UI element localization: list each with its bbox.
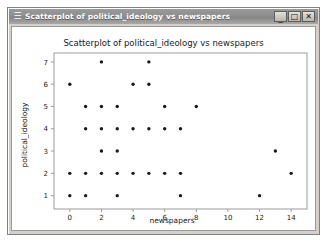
plot-window: ☰ Scatterplot of political_ideology vs n… xyxy=(7,7,320,235)
data-point xyxy=(100,149,103,152)
data-point xyxy=(147,60,150,63)
minimize-icon: _ xyxy=(275,12,286,21)
x-tick-label: 10 xyxy=(223,214,232,222)
y-axis-label: political_ideology xyxy=(20,102,29,168)
data-point xyxy=(84,127,87,130)
data-point xyxy=(179,194,182,197)
minimize-button[interactable]: _ xyxy=(274,11,287,22)
data-point xyxy=(100,105,103,108)
data-points xyxy=(68,60,293,197)
data-point xyxy=(84,172,87,175)
data-point xyxy=(116,127,119,130)
data-point xyxy=(163,127,166,130)
maximize-button[interactable]: □ xyxy=(288,11,301,22)
x-tick-label: 4 xyxy=(131,214,136,222)
maximize-icon: □ xyxy=(289,12,300,21)
data-point xyxy=(116,105,119,108)
data-point xyxy=(147,172,150,175)
data-point xyxy=(289,172,292,175)
close-icon: ✕ xyxy=(303,12,314,21)
y-tick-label: 6 xyxy=(44,81,49,89)
y-tick-label: 3 xyxy=(44,148,48,156)
data-point xyxy=(147,83,150,86)
plot-canvas: Scatterplot of political_ideology vs new… xyxy=(11,26,316,231)
data-point xyxy=(100,172,103,175)
data-point xyxy=(258,194,261,197)
data-point xyxy=(163,105,166,108)
data-point xyxy=(68,194,71,197)
data-point xyxy=(100,60,103,63)
data-point xyxy=(84,105,87,108)
x-tick-label: 14 xyxy=(287,214,296,222)
close-button[interactable]: ✕ xyxy=(302,11,315,22)
y-tick-label: 2 xyxy=(44,170,48,178)
data-point xyxy=(100,127,103,130)
y-tick-label: 1 xyxy=(44,192,48,200)
data-point xyxy=(274,149,277,152)
data-point xyxy=(116,172,119,175)
data-point xyxy=(116,194,119,197)
data-point xyxy=(147,127,150,130)
chart-title: Scatterplot of political_ideology vs new… xyxy=(63,38,264,48)
x-tick-label: 2 xyxy=(99,214,103,222)
data-point xyxy=(163,172,166,175)
data-point xyxy=(131,127,134,130)
data-point xyxy=(131,83,134,86)
x-tick-label: 0 xyxy=(68,214,72,222)
x-tick-label: 12 xyxy=(255,214,264,222)
y-axis-ticks: 1234567 xyxy=(44,59,54,201)
data-point xyxy=(195,105,198,108)
x-tick-label: 8 xyxy=(194,214,198,222)
data-point xyxy=(116,149,119,152)
data-point xyxy=(84,194,87,197)
x-axis-label: newspapers xyxy=(149,216,194,225)
data-point xyxy=(179,172,182,175)
y-tick-label: 5 xyxy=(44,103,48,111)
window-titlebar[interactable]: ☰ Scatterplot of political_ideology vs n… xyxy=(9,9,318,24)
y-tick-label: 4 xyxy=(44,125,49,133)
scatterplot-figure: Scatterplot of political_ideology vs new… xyxy=(12,27,315,230)
window-button-group: _ □ ✕ xyxy=(274,11,318,22)
data-point xyxy=(131,172,134,175)
data-point xyxy=(179,127,182,130)
window-menu-icon[interactable]: ☰ xyxy=(12,11,23,22)
y-tick-label: 7 xyxy=(44,59,48,67)
window-title: Scatterplot of political_ideology vs new… xyxy=(23,12,274,21)
data-point xyxy=(68,172,71,175)
data-point xyxy=(68,83,71,86)
plot-axes xyxy=(54,53,307,209)
